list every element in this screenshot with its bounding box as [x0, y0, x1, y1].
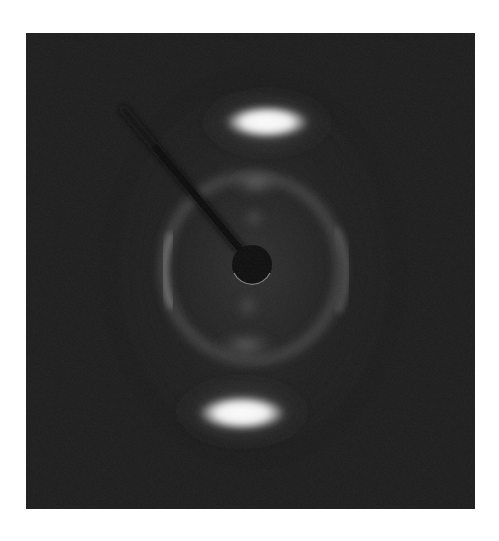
page: [0, 0, 499, 541]
diffraction-image: [26, 33, 475, 509]
diffraction-pattern: [26, 33, 475, 509]
film-grain: [26, 33, 475, 509]
